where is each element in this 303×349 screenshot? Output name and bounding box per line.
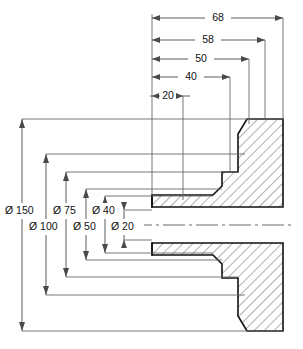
dim-40-label: 40	[185, 70, 197, 82]
upper-section-hatch	[152, 119, 283, 207]
dim-58-arrow-left	[152, 37, 160, 43]
dim-d40-label: Ø 40	[92, 204, 115, 216]
dim-d40-arrow-bottom	[102, 244, 108, 253]
dim-50-arrow-left	[152, 56, 160, 62]
dim-d50-arrow-top	[83, 189, 89, 198]
dim-d150-arrow-bottom	[19, 322, 25, 331]
dimension-50: 50	[152, 52, 249, 67]
technical-drawing-canvas: 68 58 50	[0, 0, 303, 349]
dim-d100-arrow-bottom	[43, 286, 49, 295]
dim-d75-arrow-bottom	[63, 268, 69, 277]
dim-d50-arrow-bottom	[83, 251, 89, 260]
dim-d100-arrow-top	[43, 154, 49, 163]
dim-20-label: 20	[162, 89, 174, 101]
lower-section-hatch	[152, 243, 283, 331]
dim-d75-arrow-top	[63, 172, 69, 181]
dim-40-arrow-left	[152, 74, 160, 80]
dim-d75-label: Ø 75	[53, 204, 76, 216]
dim-d20-label: Ø 20	[111, 220, 134, 232]
dimension-68: 68	[152, 11, 283, 26]
dim-40-arrow-right	[222, 74, 230, 80]
dim-58-arrow-right	[257, 37, 265, 43]
dim-50-label: 50	[195, 52, 207, 64]
dim-d150-label: Ø 150	[5, 204, 34, 216]
engineering-drawing-svg: 68 58 50	[0, 0, 303, 349]
dimension-20: 20	[150, 89, 190, 103]
dimension-d100: Ø 100	[26, 154, 68, 295]
dim-20-arrow-right	[176, 93, 183, 99]
dimension-40: 40	[152, 70, 230, 85]
dimension-d50: Ø 50	[70, 189, 106, 260]
dim-20-arrow-left	[152, 93, 159, 99]
dim-d50-label: Ø 50	[73, 220, 96, 232]
dim-58-label: 58	[202, 33, 214, 45]
dim-68-arrow-left	[152, 15, 160, 21]
dim-d100-label: Ø 100	[29, 220, 58, 232]
horizontal-dimension-set: 68 58 50	[150, 11, 283, 103]
dim-d20-arrow-bottom	[121, 240, 127, 248]
dim-68-arrow-right	[275, 15, 283, 21]
dim-68-label: 68	[212, 11, 224, 23]
dim-50-arrow-right	[241, 56, 249, 62]
diameter-dimension-set: Ø 150 Ø 100 Ø 75	[2, 119, 144, 331]
dimension-58: 58	[152, 33, 265, 48]
dim-d150-arrow-top	[19, 119, 25, 128]
